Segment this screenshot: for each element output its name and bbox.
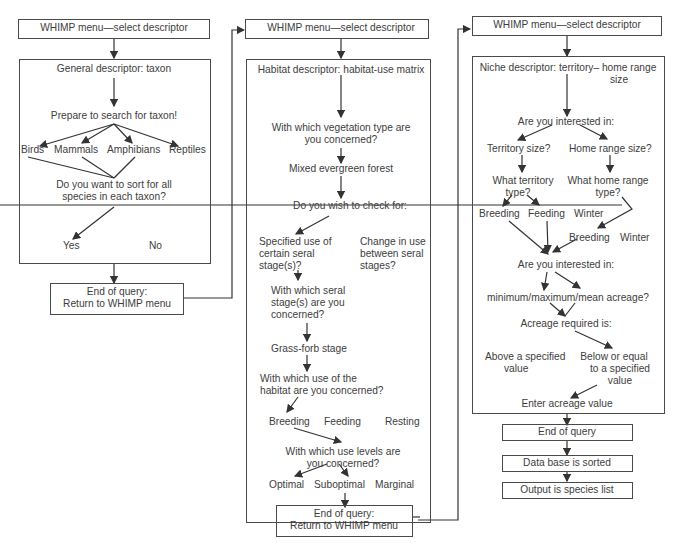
above-specified-line2: value: [504, 363, 528, 376]
database-sorted-label: Data base is sorted: [523, 457, 611, 470]
specified-use-line2: certain seral: [259, 248, 315, 261]
change-use-line3: stages?: [360, 260, 396, 273]
seral-answer: Grass-forb stage: [271, 343, 347, 356]
use-resting: Resting: [385, 416, 420, 429]
sort-question-line2: species in each taxon?: [62, 191, 166, 204]
territory-type-line1: What territory: [492, 175, 553, 188]
column1-general-descriptor-box: [19, 59, 211, 264]
seral-question-line2: stage(s) are you: [271, 297, 345, 310]
acreage-required: Acreage required is:: [520, 318, 611, 331]
column3-menu-label: WHIMP menu—select descriptor: [493, 19, 641, 32]
level-question-line2: you concerned?: [307, 458, 380, 471]
column1-descriptor-title: General descriptor: taxon: [57, 63, 171, 76]
above-specified-line1: Above a specified: [485, 351, 565, 364]
end-query-label: End of query: [538, 426, 596, 439]
column2-descriptor-title: Habitat descriptor: habitat-use matrix: [258, 64, 424, 77]
territory-type-feeding: Feeding: [528, 208, 565, 221]
column2-end-line1: End of query:: [314, 508, 375, 521]
use-breeding: Breeding: [269, 416, 310, 429]
territory-type-line2: type?: [506, 187, 531, 200]
sort-question-line1: Do you want to sort for all: [56, 179, 172, 192]
enter-acreage-value: Enter acreage value: [521, 398, 612, 411]
acreage-options: minimum/maximum/mean acreage?: [487, 292, 649, 305]
column3-descriptor-line2: size: [610, 74, 628, 87]
taxon-amphibians: Amphibians: [107, 144, 160, 157]
vegetation-answer: Mixed evergreen forest: [289, 163, 393, 176]
home-type-line1: What home range: [568, 175, 649, 188]
below-equal-line2: to a specified: [590, 363, 650, 376]
seral-question-line3: concerned?: [271, 309, 324, 322]
level-optimal: Optimal: [269, 479, 304, 492]
home-type-line2: type?: [596, 187, 621, 200]
column3-descriptor-line1: Niche descriptor: territory– home range: [480, 62, 657, 75]
check-question: Do you wish to check for:: [293, 200, 407, 213]
specified-use-line3: stage(s)?: [259, 260, 301, 273]
taxon-mammals: Mammals: [54, 144, 98, 157]
seral-question-line1: With which seral: [271, 285, 345, 298]
answer-no: No: [149, 240, 162, 253]
output-species-list-label: Output is species list: [520, 484, 613, 497]
territory-type-winter: Winter: [574, 208, 603, 221]
specified-use-line1: Specified use of: [259, 236, 332, 249]
home-range-size: Home range size?: [569, 143, 652, 156]
column1-end-line1: End of query:: [87, 286, 148, 299]
taxon-birds: Birds: [21, 144, 44, 157]
home-type-breeding: Breeding: [569, 232, 610, 245]
change-use-line2: between seral: [360, 248, 423, 261]
column1-prepare-text: Prepare to search for taxon!: [51, 110, 177, 123]
column1-end-line2: Return to WHIMP menu: [63, 298, 171, 311]
column2-menu-label: WHIMP menu—select descriptor: [267, 22, 415, 35]
interest-question: Are you interested in:: [518, 116, 614, 129]
use-question-line1: With which use of the: [260, 373, 357, 386]
vegetation-question-line2: you concerned?: [305, 134, 378, 147]
below-equal-line1: Below or equal: [580, 351, 647, 364]
home-type-winter: Winter: [620, 232, 649, 245]
level-question-line1: With which use levels are: [286, 446, 401, 459]
territory-size: Territory size?: [487, 143, 550, 156]
use-feeding: Feeding: [324, 416, 361, 429]
change-use-line1: Change in use: [360, 236, 426, 249]
below-equal-line3: value: [608, 375, 632, 388]
interest-question-2: Are you interested in:: [518, 259, 614, 272]
taxon-reptiles: Reptiles: [169, 144, 206, 157]
vegetation-question-line1: With which vegetation type are: [272, 122, 411, 135]
level-marginal: Marginal: [375, 479, 414, 492]
use-question-line2: habitat are you concerned?: [260, 385, 383, 398]
level-suboptimal: Suboptimal: [314, 479, 365, 492]
column2-end-line2: Return to WHIMP menu: [290, 520, 398, 533]
territory-type-breeding: Breeding: [479, 208, 520, 221]
column1-menu-label: WHIMP menu—select descriptor: [40, 22, 188, 35]
answer-yes: Yes: [63, 240, 80, 253]
